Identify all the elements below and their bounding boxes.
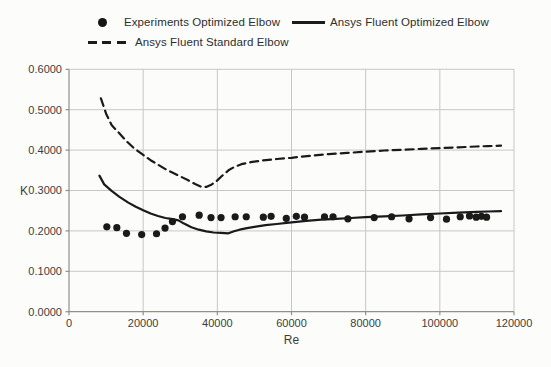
- x-axis-title: Re: [284, 333, 300, 347]
- line-series-ansys-fluent-optimized-elbow: [99, 176, 501, 234]
- svg-text:0.0000: 0.0000: [28, 306, 62, 318]
- svg-text:0.6000: 0.6000: [28, 63, 62, 75]
- svg-text:0: 0: [66, 317, 72, 329]
- chart-page: Experiments Optimized Elbow Ansys Fluent…: [0, 0, 551, 367]
- scatter-series-experiments-optimized-elbow: [103, 212, 490, 239]
- y-axis-title: K: [20, 184, 28, 198]
- svg-text:120000: 120000: [496, 317, 533, 329]
- svg-text:20000: 20000: [128, 317, 159, 329]
- svg-text:0.1000: 0.1000: [28, 265, 62, 277]
- k-vs-re-chart: 0200004000060000800001000001200000.00000…: [0, 0, 551, 367]
- x-tick-labels: 020000400006000080000100000120000: [66, 317, 532, 329]
- y-tick-labels: 0.00000.10000.20000.30000.40000.50000.60…: [28, 63, 62, 317]
- svg-text:0.4000: 0.4000: [28, 144, 62, 156]
- svg-text:60000: 60000: [276, 317, 307, 329]
- grid-lines: [69, 69, 514, 311]
- axes: [66, 69, 515, 315]
- svg-text:40000: 40000: [202, 317, 233, 329]
- line-series-ansys-fluent-standard-elbow: [101, 98, 501, 186]
- svg-text:0.5000: 0.5000: [28, 104, 62, 116]
- svg-text:100000: 100000: [421, 317, 458, 329]
- svg-text:80000: 80000: [350, 317, 381, 329]
- svg-text:0.2000: 0.2000: [28, 225, 62, 237]
- svg-text:0.3000: 0.3000: [28, 184, 62, 196]
